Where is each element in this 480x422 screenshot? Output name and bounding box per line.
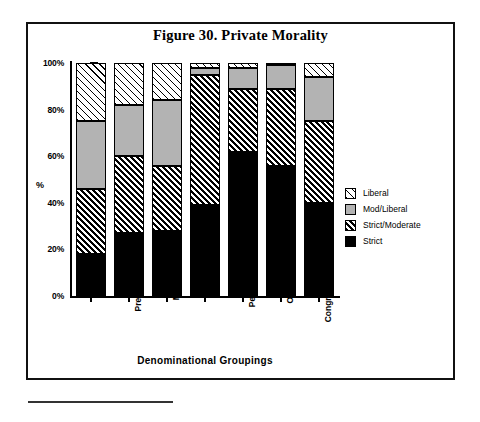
x-axis-tick bbox=[280, 297, 282, 302]
x-axis-tick bbox=[318, 297, 320, 302]
legend-item-label: Liberal bbox=[363, 188, 389, 198]
y-axis-tick-label: 60% bbox=[34, 151, 64, 161]
x-axis-title: Denominational Groupings bbox=[72, 355, 338, 366]
y-axis-title: % bbox=[36, 180, 44, 190]
bar-segment-strict-moderate[interactable] bbox=[266, 89, 296, 166]
legend-item-label: Mod/Liberal bbox=[363, 204, 407, 214]
y-axis-tick-label: 20% bbox=[34, 244, 64, 254]
x-axis-category-label: Methodist bbox=[171, 260, 181, 350]
x-axis-category-label: Presbyterian bbox=[133, 260, 143, 350]
x-axis-tick bbox=[166, 297, 168, 302]
bar-segment-liberal[interactable] bbox=[266, 63, 296, 65]
y-axis-tick-label: 0% bbox=[34, 291, 64, 301]
plot-area bbox=[72, 63, 338, 296]
footer-rule bbox=[28, 401, 173, 403]
bar-segment-liberal[interactable] bbox=[152, 63, 182, 100]
legend-swatch-icon bbox=[345, 188, 356, 199]
bar-segment-liberal[interactable] bbox=[114, 63, 144, 105]
bar-segment-mod-liberal[interactable] bbox=[304, 77, 334, 121]
bar-segment-liberal[interactable] bbox=[190, 63, 220, 68]
y-axis-tick-label: 40% bbox=[34, 198, 64, 208]
x-axis-tick bbox=[128, 297, 130, 302]
legend-item[interactable]: Strict bbox=[345, 233, 450, 249]
x-axis-category-label: Congregational bbox=[323, 260, 333, 350]
x-axis-tick bbox=[204, 297, 206, 302]
bar-segment-strict-moderate[interactable] bbox=[304, 121, 334, 203]
y-axis-labels: 0%20%40%60%80%100% bbox=[28, 0, 64, 422]
bar-segment-mod-liberal[interactable] bbox=[76, 121, 106, 189]
bar-segment-mod-liberal[interactable] bbox=[114, 105, 144, 156]
bar-segment-mod-liberal[interactable] bbox=[152, 100, 182, 165]
bar-segment-liberal[interactable] bbox=[304, 63, 334, 77]
x-axis-category-label: C of I bbox=[95, 260, 105, 350]
bar-segment-strict-moderate[interactable] bbox=[114, 156, 144, 233]
x-axis-tick bbox=[242, 297, 244, 302]
bar-segment-strict-moderate[interactable] bbox=[228, 89, 258, 152]
bar-segment-strict-moderate[interactable] bbox=[190, 75, 220, 205]
chart-title: Figure 30. Private Morality bbox=[26, 27, 455, 44]
bar-segment-mod-liberal[interactable] bbox=[190, 68, 220, 75]
bar-segment-liberal[interactable] bbox=[228, 63, 258, 68]
y-axis-tick-label: 100% bbox=[34, 58, 64, 68]
legend-item[interactable]: Liberal bbox=[345, 185, 450, 201]
x-axis-category-label: Other Pres bbox=[285, 260, 295, 350]
chart-legend: LiberalMod/LiberalStrict/ModerateStrict bbox=[345, 185, 450, 249]
figure-page: Figure 30. Private Morality 0%20%40%60%8… bbox=[0, 0, 480, 422]
legend-item-label: Strict bbox=[363, 236, 382, 246]
legend-swatch-icon bbox=[345, 236, 356, 247]
x-axis-category-label: Pent/Charis bbox=[247, 260, 257, 350]
legend-item[interactable]: Mod/Liberal bbox=[345, 201, 450, 217]
bar-segment-strict-moderate[interactable] bbox=[76, 189, 106, 254]
bar-segment-liberal[interactable] bbox=[76, 63, 106, 121]
bar-segment-strict-moderate[interactable] bbox=[152, 166, 182, 231]
legend-item-label: Strict/Moderate bbox=[363, 220, 421, 230]
y-axis-tick-label: 80% bbox=[34, 105, 64, 115]
x-axis-tick bbox=[90, 297, 92, 302]
bar-segment-mod-liberal[interactable] bbox=[266, 65, 296, 88]
legend-item[interactable]: Strict/Moderate bbox=[345, 217, 450, 233]
x-axis-category-label: Baptistic bbox=[209, 260, 219, 350]
bar-segment-mod-liberal[interactable] bbox=[228, 68, 258, 89]
legend-swatch-icon bbox=[345, 204, 356, 215]
legend-swatch-icon bbox=[345, 220, 356, 231]
